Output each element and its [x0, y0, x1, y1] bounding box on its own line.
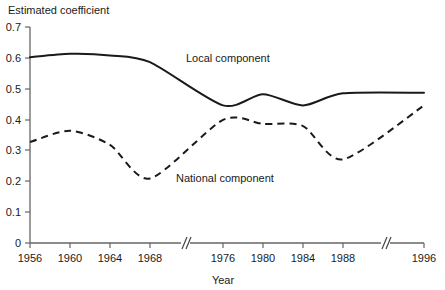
y-tick-label-0.2: 0.2: [6, 175, 21, 187]
series-label-national-component: National component: [176, 172, 274, 184]
x-tick-label-1964: 1964: [98, 252, 122, 264]
y-tick-label-0.5: 0.5: [6, 83, 21, 95]
y-axis-title: Estimated coefficient: [8, 4, 109, 16]
x-tick-label-1968: 1968: [138, 252, 162, 264]
x-tick-label-1976: 1976: [211, 252, 235, 264]
line-chart: Estimated coefficient: [0, 0, 445, 290]
y-tick-label-0: 0: [15, 237, 21, 249]
y-tick-label-0.4: 0.4: [6, 114, 21, 126]
series-label-local-component: Local component: [186, 52, 270, 64]
x-tick-label-1980: 1980: [251, 252, 275, 264]
y-tick-label-0.1: 0.1: [6, 206, 21, 218]
y-tick-label-0.3: 0.3: [6, 144, 21, 156]
x-tick-label-1960: 1960: [58, 252, 82, 264]
y-axis-ticks: [25, 27, 30, 243]
axis-break-mark-2: [382, 237, 391, 249]
axis-break-mark-1: [182, 237, 191, 249]
chart-container: Estimated coefficient: [0, 0, 445, 290]
x-axis-ticks: [30, 243, 424, 248]
x-tick-label-1984: 1984: [291, 252, 315, 264]
y-tick-label-0.7: 0.7: [6, 21, 21, 33]
series-national-component-line: [30, 105, 424, 178]
x-tick-label-1956: 1956: [18, 252, 42, 264]
x-axis-title: Year: [212, 274, 235, 286]
x-tick-label-1996: 1996: [412, 252, 436, 264]
y-tick-label-0.6: 0.6: [6, 52, 21, 64]
x-tick-label-1988: 1988: [331, 252, 355, 264]
